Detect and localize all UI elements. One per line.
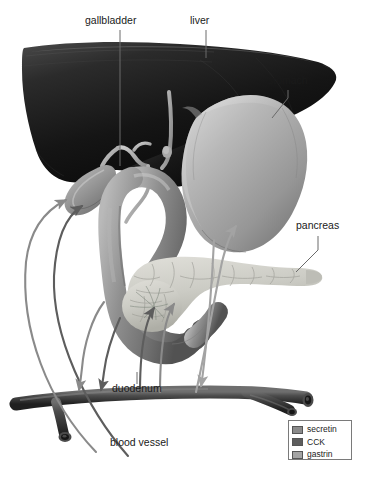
- vessel-lumen-right: [303, 393, 314, 407]
- legend-label-gastrin: gastrin: [307, 450, 333, 459]
- vessel-lumen-left: [59, 432, 72, 442]
- hormone-legend: secretin CCK gastrin: [288, 420, 352, 460]
- vessel-lumen-branch: [287, 408, 297, 416]
- legend-swatch-cck: [292, 438, 303, 446]
- legend-item-cck: CCK: [292, 437, 348, 449]
- legend-swatch-secretin: [292, 426, 303, 434]
- label-blood-vessel: blood vessel: [110, 436, 168, 448]
- illustration-canvas: gallbladder liver stomach pancreas duode…: [0, 0, 366, 477]
- label-liver: liver: [190, 14, 210, 26]
- legend-label-cck: CCK: [307, 438, 325, 447]
- legend-label-secretin: secretin: [307, 425, 337, 434]
- label-gallbladder: gallbladder: [85, 14, 137, 26]
- legend-item-gastrin: gastrin: [292, 449, 348, 461]
- legend-item-secretin: secretin: [292, 424, 348, 436]
- label-duodenum: duodenum: [112, 382, 162, 394]
- legend-swatch-gastrin: [292, 451, 303, 459]
- label-pancreas: pancreas: [296, 219, 339, 231]
- anatomy-figure: gallbladder liver stomach pancreas duode…: [0, 0, 366, 477]
- label-stomach: stomach: [268, 74, 308, 86]
